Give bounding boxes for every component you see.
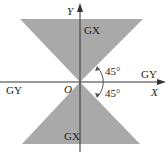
lower-gx-region [22,82,140,144]
cone-region-diagram: Y X O GX GX GY GY 45° 45° [0,0,168,158]
lower-angle-label: 45° [105,87,120,99]
upper-gx-region [20,19,143,82]
bottom-gx-label: GX [64,130,80,142]
upper-angle-label: 45° [105,65,120,77]
right-gy-label: GY [141,68,157,80]
left-gy-label: GY [6,84,22,96]
y-axis-label: Y [67,5,75,17]
x-axis-arrow-icon [157,79,166,85]
top-gx-label: GX [84,24,100,36]
x-axis-label: X [150,86,159,98]
y-axis-arrow-icon [77,3,83,12]
origin-label: O [64,83,72,95]
